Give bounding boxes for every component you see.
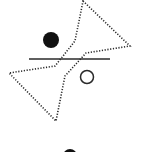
bowtie-dotted-outline	[9, 1, 130, 121]
partial-filled-circle-bottom	[63, 149, 77, 152]
open-circle	[81, 71, 94, 84]
filled-circle	[43, 32, 59, 48]
diagram-canvas	[0, 0, 143, 152]
